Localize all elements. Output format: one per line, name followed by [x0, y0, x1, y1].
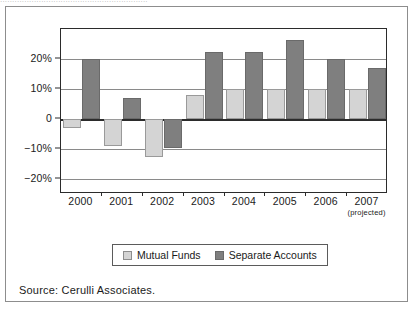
legend-swatch-mutual-funds	[123, 251, 132, 260]
bar-sa-2006	[327, 59, 345, 119]
x-axis: 20002001200220032004200520062007(project…	[60, 195, 387, 235]
bar-mf-2005	[267, 89, 285, 119]
legend-label-separate-accounts: Separate Accounts	[229, 249, 317, 261]
y-axis-label: −10%	[24, 142, 52, 154]
legend-label-mutual-funds: Mutual Funds	[137, 249, 201, 261]
legend-swatch-separate-accounts	[215, 251, 224, 260]
x-axis-tick	[101, 192, 102, 196]
x-axis-label-2005: 2005	[264, 195, 305, 207]
source-note: Source: Cerulli Associates.	[19, 284, 155, 296]
x-axis-label-2002: 2002	[142, 195, 183, 207]
bar-sa-2003	[205, 52, 223, 120]
x-axis-label-2001: 2001	[101, 195, 142, 207]
y-axis-label: 10%	[30, 82, 52, 94]
y-axis-label: 20%	[30, 52, 52, 64]
bar-mf-2004	[226, 89, 244, 119]
x-axis-label-2004: 2004	[224, 195, 265, 207]
x-axis-sublabel-2007: (projected)	[346, 208, 387, 217]
bar-sa-2000	[82, 59, 100, 119]
bar-sa-2005	[286, 40, 304, 120]
bar-mf-2001	[104, 119, 122, 146]
x-axis-tick	[142, 192, 143, 196]
bar-mf-2000	[63, 119, 81, 128]
bar-mf-2006	[308, 89, 326, 119]
bar-mf-2007	[349, 89, 367, 119]
x-axis-tick	[183, 192, 184, 196]
plot-area	[60, 28, 387, 193]
y-axis: 20%10%0−10%−20%	[6, 28, 60, 193]
x-axis-label-2007: 2007(projected)	[346, 195, 387, 217]
y-axis-label: −20%	[24, 172, 52, 184]
bar-mf-2002	[145, 119, 163, 157]
bar-mf-2003	[186, 95, 204, 119]
legend-item-mutual-funds: Mutual Funds	[123, 249, 201, 261]
x-axis-label-2003: 2003	[183, 195, 224, 207]
x-axis-label-2006: 2006	[305, 195, 346, 207]
cut-off-caption-text: ........................................…	[0, 0, 415, 4]
legend-item-separate-accounts: Separate Accounts	[215, 249, 317, 261]
y-axis-label: 0	[46, 112, 52, 124]
bar-sa-2004	[245, 52, 263, 120]
x-axis-tick	[305, 192, 306, 196]
figure-container: 20%10%0−10%−20% 200020012002200320042005…	[5, 6, 408, 302]
bar-sa-2002	[164, 119, 182, 148]
x-axis-label-2000: 2000	[60, 195, 101, 207]
bar-sa-2007	[368, 68, 386, 119]
chart-legend: Mutual Funds Separate Accounts	[112, 244, 328, 266]
x-axis-tick	[264, 192, 265, 196]
bar-sa-2001	[123, 98, 141, 119]
x-axis-tick	[224, 192, 225, 196]
bars-layer	[61, 29, 386, 192]
x-axis-tick	[346, 192, 347, 196]
